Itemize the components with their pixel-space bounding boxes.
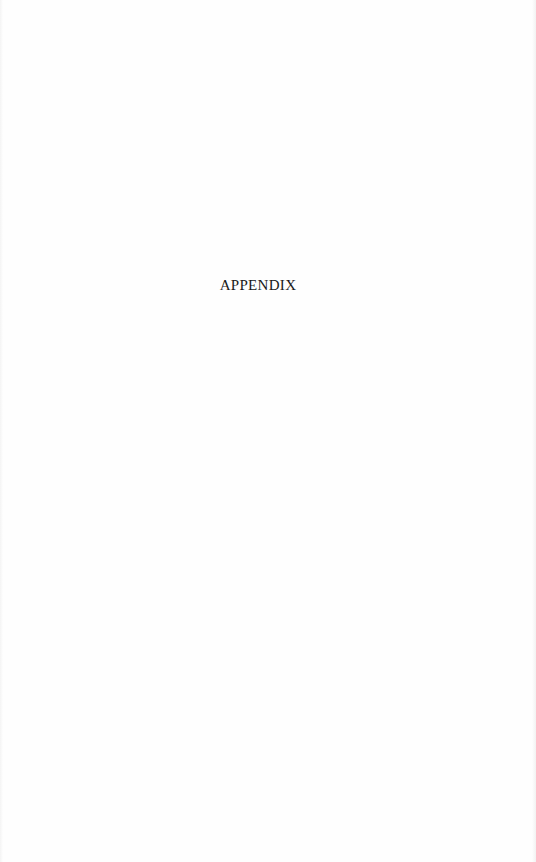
page-left-edge bbox=[0, 0, 3, 862]
page-right-edge bbox=[532, 0, 536, 862]
document-page: APPENDIX bbox=[0, 0, 536, 862]
section-heading: APPENDIX bbox=[0, 276, 516, 294]
